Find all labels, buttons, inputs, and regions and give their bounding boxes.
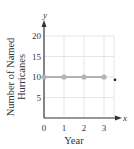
hurricane-chart: 51015200123 y x Year Number of Named Hur… xyxy=(0,0,134,149)
y-axis-title: Number of Named Hurricanes xyxy=(5,37,27,116)
x-tick-label: 2 xyxy=(82,123,87,133)
data-series xyxy=(41,74,116,81)
data-point xyxy=(101,74,106,79)
y-axis-title-line-1: Number of Named xyxy=(5,37,16,116)
y-tick-label: 15 xyxy=(32,52,42,62)
data-point xyxy=(81,74,86,79)
x-axis-variable: x xyxy=(122,113,127,123)
data-point xyxy=(61,74,66,79)
x-axis-arrow-icon xyxy=(115,116,122,121)
x-axis-title: Year xyxy=(64,135,84,146)
y-tick-label: 10 xyxy=(32,72,42,82)
x-tick-label: 3 xyxy=(102,123,107,133)
data-point xyxy=(41,74,46,79)
y-axis-title-line-2: Hurricanes xyxy=(16,54,27,100)
x-tick-label: 0 xyxy=(42,123,47,133)
annotation-dot xyxy=(114,79,117,82)
y-axis-arrow-icon xyxy=(42,20,47,27)
x-tick-label: 1 xyxy=(62,123,67,133)
y-axis-variable: y xyxy=(42,10,47,20)
axes xyxy=(42,20,123,121)
y-tick-label: 5 xyxy=(37,93,42,103)
y-tick-label: 20 xyxy=(32,31,42,41)
